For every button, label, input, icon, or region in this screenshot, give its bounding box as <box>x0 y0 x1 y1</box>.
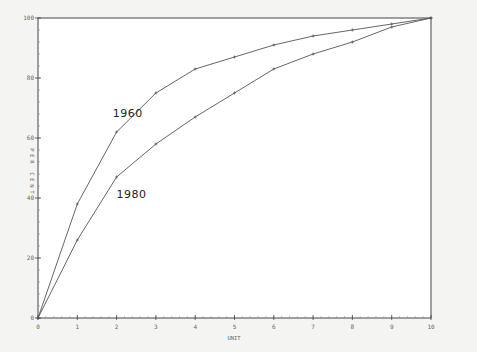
x-axis-title: UNIT <box>227 335 241 341</box>
x-tick-label: 5 <box>233 323 237 330</box>
y-tick-label: 60 <box>27 134 35 141</box>
x-tick-label: 3 <box>154 323 158 330</box>
x-tick-label: 8 <box>351 323 355 330</box>
x-tick-label: 4 <box>193 323 197 330</box>
x-tick-label: 2 <box>115 323 119 330</box>
svg-text:R: R <box>29 160 35 164</box>
svg-text:E: E <box>29 154 35 157</box>
x-tick-label: 10 <box>427 323 435 330</box>
lorenz-curve-chart: 020406080100 012345678910 19601980 UNIT … <box>0 0 477 352</box>
x-tick-label: 6 <box>272 323 276 330</box>
y-tick-label: 40 <box>27 194 35 201</box>
x-tick-label: 9 <box>390 323 394 330</box>
y-axis-title: PER CENT <box>29 148 35 194</box>
x-tick-label: 1 <box>75 323 79 330</box>
svg-text:C: C <box>29 172 35 175</box>
svg-text:E: E <box>29 178 35 181</box>
svg-text:N: N <box>29 184 35 187</box>
series-label-1960: 1960 <box>113 107 143 120</box>
y-tick-label: 100 <box>23 14 34 21</box>
x-tick-label: 7 <box>311 323 315 330</box>
y-tick-label: 80 <box>27 74 35 81</box>
svg-text:P: P <box>29 148 35 152</box>
series-label-1980: 1980 <box>117 188 147 201</box>
x-tick-label: 0 <box>36 323 40 330</box>
y-tick-label: 20 <box>27 254 35 261</box>
y-tick-label: 0 <box>30 314 34 321</box>
